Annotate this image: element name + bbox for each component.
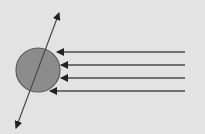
diagram-canvas — [0, 0, 205, 134]
incoming-rays — [50, 52, 185, 91]
diagram — [0, 0, 205, 134]
